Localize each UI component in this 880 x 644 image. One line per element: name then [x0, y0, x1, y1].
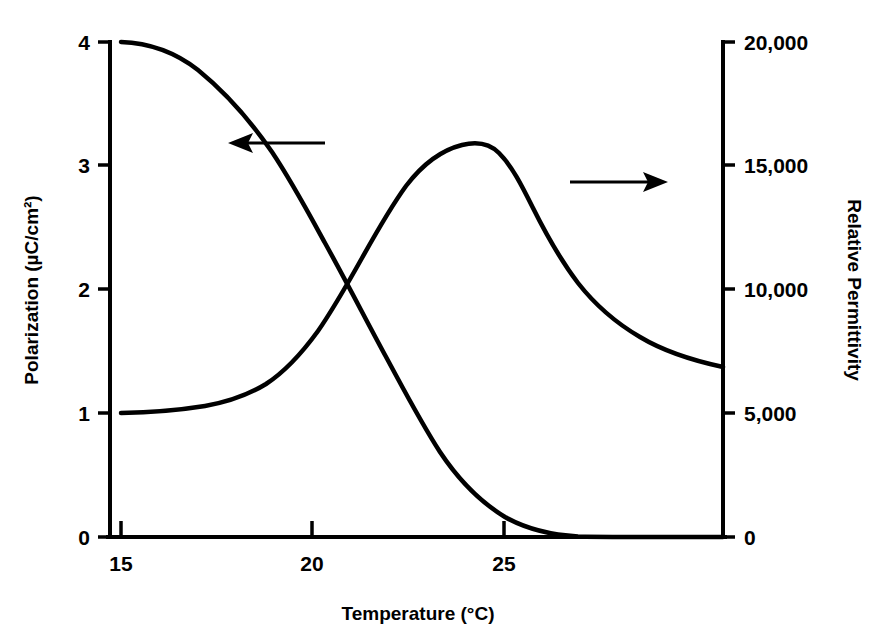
- left-axis-tick-labels: 4 3 2 1 0: [78, 31, 90, 549]
- right-tick-label-10000: 10,000: [744, 278, 808, 301]
- data-curves: [121, 42, 723, 537]
- right-axis-title: Relative Permittivity: [844, 199, 865, 381]
- x-axis-title: Temperature (°C): [342, 603, 495, 624]
- axis-group: [108, 42, 725, 537]
- x-tick-label-20: 20: [300, 552, 323, 575]
- left-tick-label-0: 0: [78, 526, 90, 549]
- right-axis-tick-labels: 20,000 15,000 10,000 5,000 0: [744, 31, 808, 549]
- left-pointing-arrow: [228, 133, 325, 153]
- left-axis-title: Polarization (µC/cm²): [21, 195, 42, 384]
- permittivity-curve: [121, 143, 723, 413]
- x-axis-ticks: [121, 521, 504, 537]
- left-tick-label-1: 1: [78, 402, 90, 425]
- right-tick-label-5000: 5,000: [744, 402, 797, 425]
- x-tick-label-25: 25: [492, 552, 516, 575]
- right-pointing-arrow: [570, 172, 668, 192]
- x-axis-tick-labels: 15 20 25: [109, 552, 516, 575]
- chart-canvas: 4 3 2 1 0 20,000 15,000 10,000 5,000 0: [0, 0, 880, 644]
- x-tick-label-15: 15: [109, 552, 133, 575]
- right-tick-label-0: 0: [744, 526, 756, 549]
- left-tick-label-4: 4: [78, 31, 90, 54]
- chart-figure: 4 3 2 1 0 20,000 15,000 10,000 5,000 0: [0, 0, 880, 644]
- right-tick-label-15000: 15,000: [744, 154, 808, 177]
- left-tick-label-3: 3: [78, 154, 90, 177]
- polarization-curve: [121, 42, 723, 537]
- left-tick-label-2: 2: [78, 278, 90, 301]
- right-tick-label-20000: 20,000: [744, 31, 808, 54]
